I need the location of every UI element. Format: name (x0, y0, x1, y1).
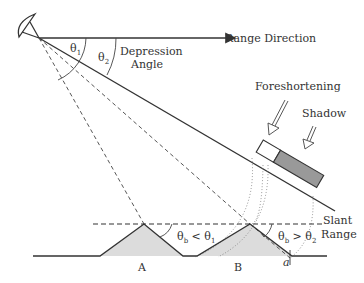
antenna-icon (18, 14, 39, 38)
mountain-a-fill (100, 224, 183, 256)
condition-a-label: θb < θ1 (177, 230, 215, 245)
projection-arc-2 (250, 165, 263, 224)
projection-arc-4 (290, 196, 313, 258)
foreshortening-label: Foreshortening (255, 80, 341, 93)
radar-geometry-diagram: θ1 θ2 Depression Angle Range Direction F… (0, 0, 364, 283)
slant-range-label: Slant (323, 214, 353, 227)
point-small-a-label: a (283, 256, 290, 269)
shadow-box (273, 150, 323, 187)
slope-angle-arc-a (160, 224, 172, 237)
slant-range-line (39, 38, 335, 211)
theta2-label: θ2 (98, 51, 109, 66)
slant-range-image-boxes (256, 140, 324, 187)
shadow-label: Shadow (302, 107, 347, 120)
shadow-arrow-icon (303, 126, 316, 149)
depression-angle-label-2: Angle (130, 58, 163, 71)
beam-line-a (39, 38, 144, 224)
range-direction-label: Range Direction (225, 32, 316, 45)
foreshortening-arrow-icon (268, 100, 288, 135)
point-a-label: A (137, 261, 147, 274)
depression-angle-label: Depression (120, 45, 183, 58)
condition-b-label: θb > θ2 (278, 230, 316, 245)
theta2-arc (107, 38, 116, 75)
theta1-label: θ1 (70, 42, 81, 57)
slant-range-label-2: Range (321, 228, 357, 241)
point-b-label: B (234, 261, 242, 274)
